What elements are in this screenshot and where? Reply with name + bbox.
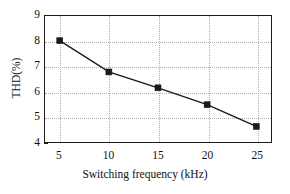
- data-point-marker: [57, 38, 63, 44]
- y-axis-tick: [44, 143, 48, 144]
- plot-area: [44, 15, 272, 143]
- data-series-layer: [45, 16, 271, 142]
- data-point-marker: [155, 85, 161, 91]
- y-axis-tick-label: 9: [10, 9, 40, 21]
- x-axis-tick-label: 20: [193, 150, 223, 162]
- data-point-marker: [204, 102, 210, 108]
- data-point-marker: [253, 123, 259, 129]
- x-axis-tick-label: 15: [143, 150, 173, 162]
- data-point-marker: [106, 69, 112, 75]
- chart-figure: 456789 THD(%) 510152025 Switching freque…: [0, 0, 290, 194]
- y-axis-tick-label: 4: [10, 137, 40, 149]
- x-axis-tick-label: 5: [44, 150, 74, 162]
- series-markers-thd: [57, 38, 259, 130]
- series-line-thd: [60, 41, 257, 127]
- x-axis-tick-label: 10: [93, 150, 123, 162]
- x-axis-title: Switching frequency (kHz): [0, 168, 290, 180]
- y-axis-title: THD(%): [10, 33, 22, 123]
- x-axis-tick-label: 25: [242, 150, 272, 162]
- plot-inner: [45, 16, 271, 142]
